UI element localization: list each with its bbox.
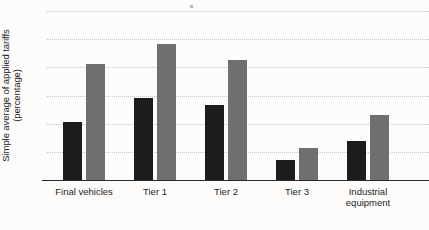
x-axis-line: [42, 180, 429, 181]
y-axis-title: Simple average of applied tariffs (perce…: [0, 0, 22, 190]
bar: [299, 148, 318, 180]
gridline: [47, 39, 429, 40]
bar: [86, 64, 105, 180]
plot-area: 024681012 Final vehiclesTier 1Tier 2Tier…: [47, 0, 429, 181]
y-axis-title-line1: Simple average of applied tariffs: [0, 29, 11, 161]
scan-artifact-speck: [190, 5, 193, 8]
x-axis-tick-label: Tier 3: [258, 186, 336, 197]
bar: [370, 115, 389, 180]
bar: [228, 60, 247, 180]
bar: [205, 105, 224, 180]
bar-chart: Simple average of applied tariffs (perce…: [0, 0, 429, 230]
bar: [157, 44, 176, 180]
x-axis-tick-label: Tier 1: [116, 186, 194, 197]
gridline: [47, 11, 429, 12]
x-axis-tick-label: Industrial equipment: [329, 186, 407, 208]
bar: [134, 98, 153, 180]
bar: [276, 160, 295, 180]
x-axis-tick-label: Tier 2: [187, 186, 265, 197]
bar: [347, 141, 366, 180]
y-axis-title-line2: (percentage): [11, 29, 22, 161]
bar: [63, 122, 82, 180]
x-axis-tick-label: Final vehicles: [45, 186, 123, 197]
